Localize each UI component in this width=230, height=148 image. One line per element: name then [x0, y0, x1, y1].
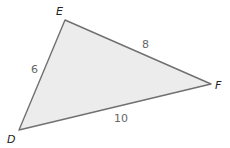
side-label-de: 6 [31, 63, 38, 76]
triangle-diagram: E F D 6 8 10 [0, 0, 230, 148]
side-label-df: 10 [114, 112, 128, 125]
vertex-label-f: F [215, 79, 222, 92]
side-label-ef: 8 [142, 38, 149, 51]
vertex-label-d: D [7, 133, 15, 146]
vertex-label-e: E [56, 5, 63, 18]
